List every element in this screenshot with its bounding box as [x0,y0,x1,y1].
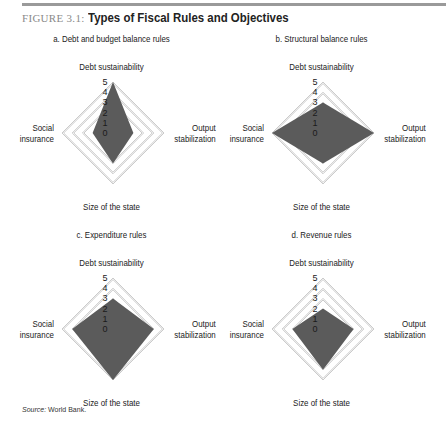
axis-label-social-insurance: Socialinsurance [15,123,54,145]
svg-text:2: 2 [102,108,107,118]
source-text: World Bank. [48,406,86,413]
svg-text:1: 1 [312,118,317,128]
axis-label-debt-sustainability: Debt sustainability [13,62,209,73]
axis-label-debt-sustainability: Debt sustainability [13,258,209,269]
svg-text:0: 0 [312,128,317,138]
svg-text:4: 4 [102,87,107,97]
axis-label-social-insurance: Socialinsurance [225,123,264,145]
radar-panel-a: a. Debt and budget balance rules012345De… [0,30,223,225]
svg-text:5: 5 [102,77,107,87]
svg-text:2: 2 [102,304,107,314]
svg-text:3: 3 [102,293,107,303]
figure-title-text: Types of Fiscal Rules and Objectives [88,10,289,25]
axis-label-output-stabilization: Outputstabilization [380,123,426,145]
radar-panel-c: c. Expenditure rules012345Debt sustainab… [0,226,223,421]
axis-label-output-stabilization: Outputstabilization [380,319,426,341]
svg-text:1: 1 [102,314,107,324]
svg-text:1: 1 [312,314,317,324]
axis-label-output-stabilization: Outputstabilization [170,319,216,341]
axis-label-size-of-state: Size of the state [13,202,209,213]
svg-text:2: 2 [312,304,317,314]
svg-text:0: 0 [102,324,107,334]
svg-text:4: 4 [312,87,317,97]
source-note: Source: World Bank. [22,406,86,413]
svg-text:0: 0 [102,128,107,138]
svg-text:3: 3 [102,97,107,107]
axis-label-size-of-state: Size of the state [223,398,419,409]
radar-panel-b: b. Structural balance rules012345Debt su… [210,30,433,225]
axis-label-social-insurance: Socialinsurance [225,319,264,341]
axis-label-social-insurance: Socialinsurance [15,319,54,341]
svg-text:4: 4 [102,283,107,293]
radar-panel-d: d. Revenue rules012345Debt sustainabilit… [210,226,433,421]
svg-text:5: 5 [312,77,317,87]
svg-text:1: 1 [102,118,107,128]
svg-text:3: 3 [312,97,317,107]
svg-text:0: 0 [312,324,317,334]
axis-label-debt-sustainability: Debt sustainability [223,258,419,269]
axis-label-debt-sustainability: Debt sustainability [223,62,419,73]
svg-text:5: 5 [102,273,107,283]
svg-text:2: 2 [312,108,317,118]
axis-label-output-stabilization: Outputstabilization [170,123,216,145]
svg-text:3: 3 [312,293,317,303]
svg-text:5: 5 [312,273,317,283]
axis-label-size-of-state: Size of the state [223,202,419,213]
top-rule [22,3,446,6]
svg-text:4: 4 [312,283,317,293]
source-label: Source: [22,406,46,413]
figure-title: FIGURE 3.1: Types of Fiscal Rules and Ob… [22,10,316,25]
figure-number: FIGURE 3.1: [22,12,85,24]
